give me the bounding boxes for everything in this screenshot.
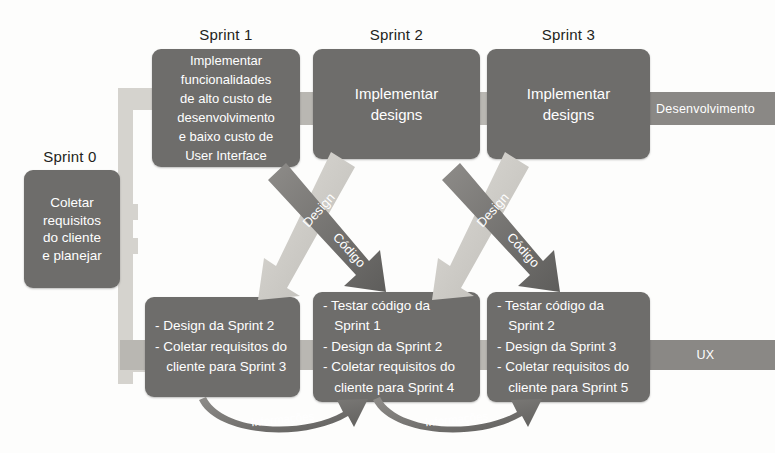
lane-label-ux: UX (697, 348, 715, 362)
task-line: - Design da Sprint 2 (323, 337, 480, 358)
arrow-label-informacoes-2: Informações (424, 410, 488, 429)
arrow-informacoes-2 (373, 397, 542, 432)
arrow-label-design-2: Design (474, 190, 512, 230)
arrow-design-2 (442, 163, 560, 292)
task-line: funcionalidades (181, 70, 271, 89)
caption-sprint-1: Sprint 1 (152, 26, 300, 43)
arrow-design-2-shaft (432, 152, 529, 300)
task-line: - Coletar requisitos do (323, 357, 480, 378)
caption-sprint-2-label: Sprint 2 (370, 26, 423, 43)
task-box-sprint-1-top[interactable]: Implementar funcionalidades de alto cust… (152, 49, 300, 167)
task-line: designs (371, 104, 423, 125)
arrow-label-design-1: Design (300, 190, 338, 230)
task-box-sprint-0[interactable]: Coletar requisitos do cliente e planejar (24, 170, 120, 288)
arrow-design-1 (268, 163, 386, 292)
task-line: desenvolvimento (177, 108, 275, 127)
caption-sprint-3: Sprint 3 (487, 26, 650, 43)
caption-sprint-3-label: Sprint 3 (542, 26, 595, 43)
task-box-sprint-2-top[interactable]: Implementar designs (313, 49, 480, 159)
task-line: - Testar código da (323, 296, 480, 317)
caption-sprint-1-label: Sprint 1 (199, 26, 252, 43)
task-line: Implementar (190, 51, 262, 70)
task-line: Sprint 2 (497, 316, 650, 337)
task-line: Implementar (527, 83, 610, 104)
task-line: cliente para Sprint 3 (155, 357, 300, 378)
task-line: - Coletar requisitos do (497, 357, 650, 378)
task-line: Sprint 1 (323, 316, 480, 337)
task-line: - Design da Sprint 2 (155, 316, 300, 337)
task-line: e baixo custo de (179, 127, 274, 146)
sprint-flow-diagram: Desenvolvimento UX Sprint 0 Sprint 1 Spr… (0, 0, 775, 453)
arrow-label-informacoes-1: Informações (250, 410, 314, 429)
task-line: Coletar (50, 194, 94, 212)
task-line: User Interface (185, 146, 267, 165)
arrow-label-codigo-1: Código (330, 230, 369, 271)
task-line: do cliente (43, 229, 101, 247)
lane-bar-ux: UX (636, 340, 775, 370)
task-line: cliente para Sprint 5 (497, 378, 650, 399)
task-line: requisitos (43, 212, 101, 230)
task-line: de alto custo de (180, 89, 272, 108)
arrow-informacoes-1 (199, 397, 368, 432)
task-box-sprint-3-bottom[interactable]: - Testar código da Sprint 2 - Design da … (487, 292, 650, 402)
task-line: - Design da Sprint 3 (497, 337, 650, 358)
task-box-sprint-1-bottom[interactable]: - Design da Sprint 2 - Coletar requisito… (145, 297, 300, 397)
arrow-label-codigo-2: Código (504, 230, 543, 271)
lane-label-development: Desenvolvimento (656, 102, 755, 116)
task-line: designs (543, 104, 595, 125)
task-box-sprint-3-top[interactable]: Implementar designs (487, 49, 650, 159)
lane-bar-development: Desenvolvimento (636, 92, 775, 125)
caption-sprint-0: Sprint 0 (20, 148, 120, 165)
task-box-sprint-2-bottom[interactable]: - Testar código da Sprint 1 - Design da … (313, 292, 480, 402)
task-line: - Testar código da (497, 296, 650, 317)
task-line: Implementar (355, 83, 438, 104)
task-line: e planejar (42, 247, 101, 265)
task-line: cliente para Sprint 4 (323, 378, 480, 399)
arrow-design-1-shaft (258, 152, 355, 300)
caption-sprint-2: Sprint 2 (313, 26, 480, 43)
caption-sprint-0-label: Sprint 0 (43, 148, 96, 165)
task-line: - Coletar requisitos do (155, 337, 300, 358)
